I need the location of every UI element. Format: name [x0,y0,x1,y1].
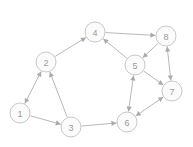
directed-graph-figure: 12345678 [0,0,193,147]
graph-node-5[interactable]: 5 [125,55,145,75]
node-label: 3 [68,123,73,133]
edge-line [55,38,86,57]
edge-line [50,72,67,117]
graph-node-1[interactable]: 1 [10,103,30,123]
edge-line [167,47,171,81]
node-label: 8 [163,32,168,42]
graph-node-7[interactable]: 7 [162,81,182,101]
arrowhead-to-3 [55,120,61,125]
graph-edge-5-4 [103,39,127,59]
edge-line [128,75,133,111]
graph-node-6[interactable]: 6 [117,112,137,132]
node-label: 6 [124,118,129,128]
graph-node-3[interactable]: 3 [61,117,81,137]
node-label: 2 [43,58,48,68]
edge-line [82,123,117,126]
edge-line [106,33,156,36]
node-label: 5 [132,61,137,71]
arrowhead-to-8 [165,47,170,52]
edge-layer [25,33,173,127]
graph-edge-5-7 [144,71,164,85]
graph-edge-3-6 [82,121,117,126]
graph-edge-8-5 [143,43,159,58]
edge-line [136,97,164,116]
graph-edge-1-3 [30,116,61,126]
arrowhead-to-5 [130,75,135,80]
graph-edge-5-6 [127,75,136,111]
graph-edge-2-4 [55,38,86,57]
graph-node-2[interactable]: 2 [36,52,56,72]
graph-edge-4-8 [106,33,156,38]
arrowhead-to-7 [158,80,164,85]
arrowhead-to-6 [136,111,142,116]
graph-edge-6-7 [136,97,164,116]
node-label: 4 [92,28,97,38]
graph-node-4[interactable]: 4 [85,22,105,42]
graph-edge-3-2 [49,72,67,117]
node-label: 1 [17,109,22,119]
arrowhead-to-6 [127,106,132,111]
arrowhead-to-6 [111,121,116,126]
edge-line [25,71,41,103]
graph-edge-1-2 [25,71,41,103]
arrowhead-to-7 [158,97,164,102]
graph-edge-7-8 [165,47,173,81]
arrowhead-to-8 [150,33,155,38]
node-label: 7 [169,87,174,97]
arrowhead-to-7 [168,75,173,80]
graph-canvas: 12345678 [0,0,193,147]
graph-node-8[interactable]: 8 [156,26,176,46]
